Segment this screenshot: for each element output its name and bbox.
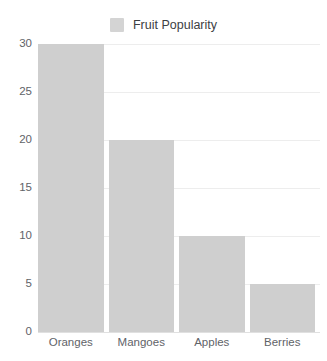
gridline	[38, 332, 320, 333]
legend-swatch-icon	[110, 18, 124, 32]
chart-legend: Fruit Popularity	[0, 14, 327, 36]
x-axis-tick-label: Berries	[264, 336, 300, 350]
x-axis: OrangesMangoesApplesBerries	[38, 336, 320, 356]
bar-berries[interactable]	[250, 284, 316, 332]
y-axis-tick-label: 10	[19, 230, 32, 242]
y-axis-tick-label: 30	[19, 38, 32, 50]
y-axis-tick-label: 0	[26, 326, 32, 338]
y-axis-tick-label: 25	[19, 86, 32, 98]
x-axis-tick-label: Apples	[194, 336, 229, 350]
bar-chart: Fruit Popularity 051015202530 OrangesMan…	[0, 0, 327, 361]
y-axis-tick-label: 20	[19, 134, 32, 146]
bar-series	[38, 44, 320, 332]
y-axis-tick-label: 5	[26, 278, 32, 290]
x-axis-tick-label: Oranges	[49, 336, 93, 350]
x-axis-tick-label: Mangoes	[118, 336, 165, 350]
legend-label-fruit-popularity: Fruit Popularity	[133, 19, 217, 32]
bar-oranges[interactable]	[38, 44, 104, 332]
bar-mangoes[interactable]	[109, 140, 175, 332]
plot-area	[38, 44, 320, 332]
y-axis-tick-label: 15	[19, 182, 32, 194]
y-axis: 051015202530	[0, 44, 32, 332]
bar-apples[interactable]	[179, 236, 245, 332]
